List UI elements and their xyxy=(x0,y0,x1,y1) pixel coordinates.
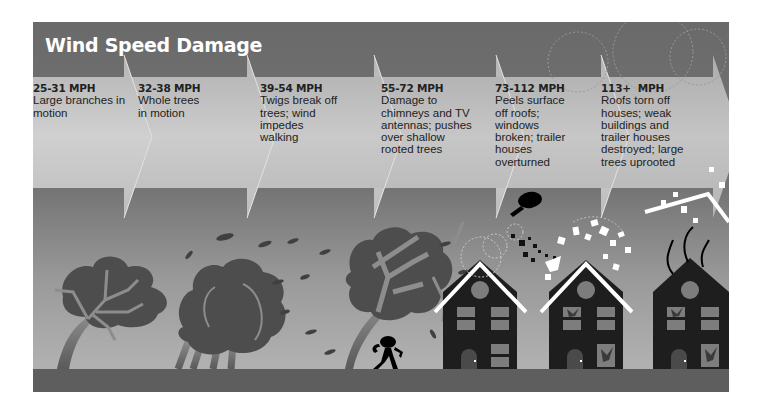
stage-2-speed: 32-38 MPH xyxy=(138,82,238,94)
stage-5-desc: Peels surfaceoff roofs;windowsbroken; tr… xyxy=(495,94,595,168)
stage-4: 55-72 MPH Damage tochimneys and TVantenn… xyxy=(381,82,491,156)
stage-3-speed: 39-54 MPH xyxy=(260,82,370,94)
stage-4-desc: Damage tochimneys and TVantennas; pushes… xyxy=(381,94,491,155)
house-roof-peeling-icon xyxy=(541,217,632,369)
ground xyxy=(33,369,729,392)
tree-bent-icon xyxy=(55,256,167,369)
stage-6: 113+ MPH Roofs torn offhouses; weakbuild… xyxy=(601,82,711,168)
stage-1: 25-31 MPH Large branches inmotion xyxy=(33,82,133,119)
stage-2-desc: Whole treesin motion xyxy=(138,94,238,119)
infographic-title: Wind Speed Damage xyxy=(45,34,262,56)
stage-1-speed: 25-31 MPH xyxy=(33,82,133,94)
stage-3: 39-54 MPH Twigs break offtrees; windimpe… xyxy=(260,82,370,143)
stage-5: 73-112 MPH Peels surfaceoff roofs;window… xyxy=(495,82,595,168)
infographic-panel: Wind Speed Damage 25-31 MPH Large branch… xyxy=(33,22,729,392)
stage-1-desc: Large branches inmotion xyxy=(33,94,133,119)
house-chimney-damage-icon xyxy=(435,190,556,369)
stage-6-speed: 113+ MPH xyxy=(601,82,711,94)
stage-3-desc: Twigs break offtrees; windimpedeswalking xyxy=(260,94,370,143)
stage-2: 32-38 MPH Whole treesin motion xyxy=(138,82,238,119)
stage-5-speed: 73-112 MPH xyxy=(495,82,595,94)
tree-swaying-icon xyxy=(178,232,317,369)
stage-6-desc: Roofs torn offhouses; weakbuildings andt… xyxy=(601,94,711,168)
illustration xyxy=(33,22,729,392)
person-walking-icon xyxy=(372,336,403,369)
stage-4-speed: 55-72 MPH xyxy=(381,82,491,94)
